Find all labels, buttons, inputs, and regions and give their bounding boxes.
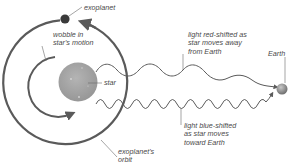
earth-icon: [277, 84, 288, 95]
blue-shift-label: light blue-shifted as star moves toward …: [184, 122, 236, 147]
red-shift-label: light red-shifted as star moves away fro…: [188, 31, 247, 56]
star-icon: [59, 63, 98, 102]
orbit-label: exoplanet's orbit: [118, 148, 154, 165]
earth-label: Earth: [268, 50, 285, 58]
red-shifted-wave: [96, 64, 276, 87]
star-label: star: [104, 79, 116, 87]
radial-velocity-diagram: exoplanet wobble in star's motion star e…: [0, 0, 294, 166]
diagram-graphics: [0, 0, 294, 166]
exoplanet-icon: [60, 14, 69, 23]
wobble-label: wobble in star's motion: [53, 31, 94, 48]
exoplanet-label: exoplanet: [84, 4, 115, 12]
